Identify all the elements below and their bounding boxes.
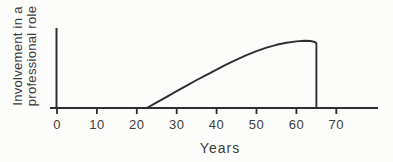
x-tick-label: 70 xyxy=(329,117,344,132)
x-tick-label: 10 xyxy=(89,117,104,132)
x-tick-label: 60 xyxy=(289,117,304,132)
x-axis-tick-labels: 010203040506070 xyxy=(53,117,344,132)
y-axis-title-line2: professional role xyxy=(24,6,39,107)
x-tick-label: 0 xyxy=(53,117,61,132)
y-axis-title-line1: Involvement in a xyxy=(10,6,25,106)
x-tick-label: 20 xyxy=(129,117,144,132)
x-tick-label: 50 xyxy=(249,117,264,132)
x-tick-label: 30 xyxy=(169,117,184,132)
y-axis-title: Involvement in a professional role xyxy=(10,6,39,107)
chart: Involvement in a professional role 01020… xyxy=(0,0,393,162)
involvement-years-chart: Involvement in a professional role 01020… xyxy=(0,0,393,162)
x-tick-label: 40 xyxy=(209,117,224,132)
x-axis-title: Years xyxy=(200,140,240,156)
involvement-curve xyxy=(147,41,317,108)
